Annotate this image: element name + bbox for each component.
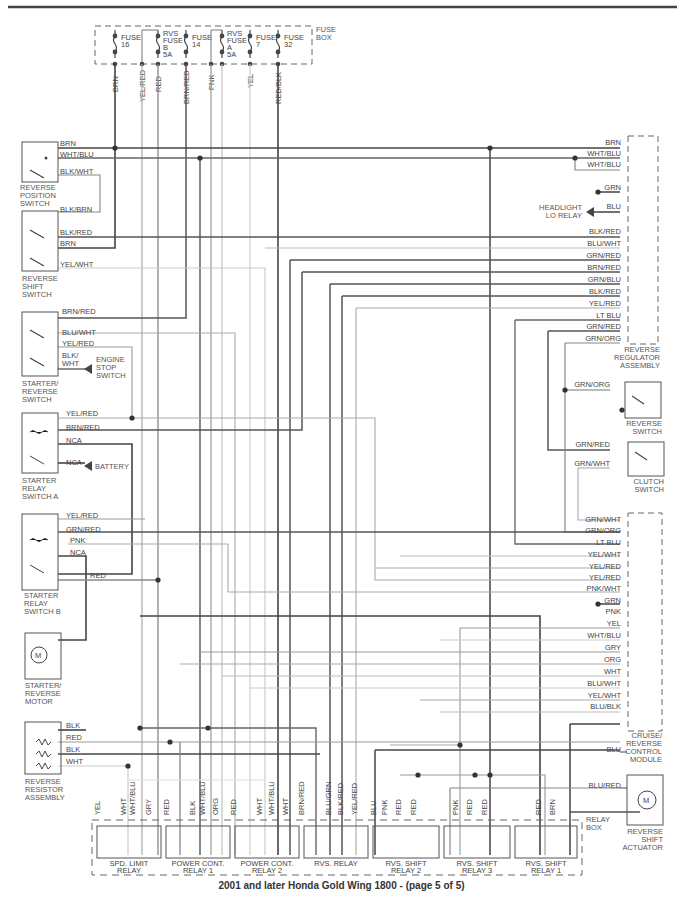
svg-text:RED: RED	[480, 799, 489, 815]
svg-text:YEL/WHT: YEL/WHT	[60, 260, 94, 269]
svg-text:YEL: YEL	[93, 801, 102, 815]
svg-text:BRN/RED: BRN/RED	[62, 307, 96, 316]
svg-text:RED: RED	[90, 571, 106, 580]
svg-text:RED: RED	[229, 799, 238, 815]
svg-text:SWITCH: SWITCH	[96, 371, 126, 380]
svg-text:BOX: BOX	[316, 33, 332, 42]
svg-text:MODULE: MODULE	[630, 755, 662, 764]
svg-text:BRN/RED: BRN/RED	[297, 781, 306, 815]
svg-text:BLU: BLU	[606, 202, 621, 211]
svg-text:WHT/BLU: WHT/BLU	[267, 781, 276, 815]
svg-text:WHT: WHT	[62, 359, 79, 368]
svg-text:GRN/ORG: GRN/ORG	[585, 334, 621, 343]
svg-text:GRN/RED: GRN/RED	[586, 251, 621, 260]
svg-text:SWITCH A: SWITCH A	[22, 492, 58, 501]
svg-text:RED: RED	[162, 799, 171, 815]
svg-text:RED: RED	[534, 799, 543, 815]
svg-text:BLK: BLK	[66, 745, 80, 754]
svg-text:RELAY: RELAY	[117, 866, 141, 875]
wiring-diagram: FUSE BOX FUSE 16 RVS FUSE B 5A FUSE 14 R…	[0, 0, 683, 907]
svg-text:SWITCH: SWITCH	[20, 199, 50, 208]
svg-text:WHT: WHT	[66, 757, 83, 766]
svg-text:PNK: PNK	[380, 800, 389, 815]
ground-icon	[595, 189, 600, 194]
svg-text:BLK/RED: BLK/RED	[336, 782, 345, 815]
starter-relay-switch-b: YEL/RED GRN/RED PNK NCA RED STARTER RELA…	[22, 511, 106, 616]
svg-text:GRN/ORG: GRN/ORG	[585, 526, 621, 535]
svg-text:YEL: YEL	[607, 619, 621, 628]
svg-text:SWITCH: SWITCH	[634, 485, 664, 494]
svg-text:GRN/WHT: GRN/WHT	[585, 515, 621, 524]
svg-text:14: 14	[192, 40, 200, 49]
svg-text:BLK: BLK	[66, 721, 80, 730]
svg-text:BLU/WHT: BLU/WHT	[62, 328, 96, 337]
fuse-box: FUSE BOX FUSE 16 RVS FUSE B 5A FUSE 14 R…	[95, 25, 336, 104]
svg-text:SWITCH B: SWITCH B	[24, 607, 61, 616]
svg-text:YEL/RED: YEL/RED	[350, 782, 359, 815]
svg-text:SWITCH: SWITCH	[22, 290, 52, 299]
svg-text:YEL/RED: YEL/RED	[589, 573, 622, 582]
svg-text:PNK: PNK	[70, 536, 85, 545]
svg-text:LT BLU: LT BLU	[596, 311, 621, 320]
svg-text:GRN/RED: GRN/RED	[575, 440, 610, 449]
wire-harness	[58, 64, 640, 855]
svg-text:SWITCH: SWITCH	[632, 427, 662, 436]
svg-text:GRN: GRN	[604, 183, 621, 192]
svg-text:GRN/WHT: GRN/WHT	[574, 459, 610, 468]
svg-text:LT BLU: LT BLU	[596, 538, 621, 547]
svg-text:BRN: BRN	[548, 799, 557, 815]
svg-text:GRN/BLU: GRN/BLU	[588, 275, 621, 284]
svg-text:BRN: BRN	[605, 138, 621, 147]
svg-text:WHT: WHT	[604, 667, 621, 676]
svg-text:32: 32	[284, 40, 292, 49]
svg-text:BLU/GRN: BLU/GRN	[324, 782, 333, 815]
ground-icon	[595, 601, 600, 606]
svg-text:RELAY 1: RELAY 1	[183, 866, 213, 875]
svg-text:MOTOR: MOTOR	[25, 697, 53, 706]
svg-text:BLU: BLU	[369, 800, 378, 815]
svg-text:RELAY 2: RELAY 2	[391, 866, 421, 875]
right-connector-top: BRN WHT/BLU WHT/BLU GRN BLU HEADLIGHT LO…	[539, 138, 621, 220]
svg-text:ASSEMBLY: ASSEMBLY	[620, 361, 660, 370]
svg-text:ORG: ORG	[211, 798, 220, 815]
svg-text:YEL/WHT: YEL/WHT	[588, 691, 622, 700]
svg-text:PNK: PNK	[606, 607, 621, 616]
svg-text:RELAY 2: RELAY 2	[252, 866, 282, 875]
battery-label: BATTERY	[95, 462, 129, 471]
junction-dots	[112, 145, 577, 777]
relay-rvs: RVS. RELAY	[314, 859, 358, 868]
wiring-diagram-svg: FUSE BOX FUSE 16 RVS FUSE B 5A FUSE 14 R…	[0, 0, 683, 907]
svg-text:GRY: GRY	[605, 643, 621, 652]
reverse-regulator-assembly: BLK/RED BLU/WHT GRN/RED BRN/RED GRN/BLU …	[585, 136, 660, 370]
starter-reverse-motor: M STARTER/ REVERSE MOTOR	[25, 633, 62, 706]
svg-text:GRN/ORG: GRN/ORG	[574, 380, 610, 389]
svg-text:7: 7	[256, 40, 260, 49]
svg-text:NCA: NCA	[70, 548, 86, 557]
svg-text:WHT/BLU: WHT/BLU	[587, 631, 621, 640]
svg-text:16: 16	[121, 40, 129, 49]
svg-text:YEL/RED: YEL/RED	[589, 562, 622, 571]
svg-text:BRN: BRN	[60, 239, 76, 248]
svg-text:BLK/WHT: BLK/WHT	[60, 167, 94, 176]
svg-text:BRN/RED: BRN/RED	[66, 423, 100, 432]
relay-box: RELAY BOX SPD. LIMIT RELAY POWER CONT. R…	[92, 781, 610, 875]
svg-text:GRN/RED: GRN/RED	[66, 525, 101, 534]
svg-text:YEL/RED: YEL/RED	[62, 339, 95, 348]
diagram-caption: 2001 and later Honda Gold Wing 1800 - (p…	[0, 880, 683, 891]
svg-text:5A: 5A	[227, 50, 236, 59]
reverse-resistor-assembly: BLK RED BLK WHT REVERSE RESISTOR ASSEMBL…	[25, 721, 83, 802]
svg-text:BRN: BRN	[60, 139, 76, 148]
svg-text:WHT/BLU: WHT/BLU	[587, 160, 621, 169]
svg-text:GRY: GRY	[144, 799, 153, 815]
motor-icon: M	[35, 651, 41, 660]
svg-text:BLU: BLU	[606, 745, 621, 754]
svg-text:LO RELAY: LO RELAY	[546, 211, 582, 220]
reverse-switch: GRN/ORG REVERSE SWITCH	[574, 380, 662, 436]
svg-text:RELAY 1: RELAY 1	[531, 866, 561, 875]
svg-text:YEL/RED: YEL/RED	[66, 409, 99, 418]
svg-text:BLK/RED: BLK/RED	[60, 228, 93, 237]
svg-text:RED: RED	[394, 799, 403, 815]
svg-text:BLU/RED: BLU/RED	[588, 781, 621, 790]
svg-text:5A: 5A	[163, 50, 172, 59]
svg-text:RED: RED	[465, 799, 474, 815]
